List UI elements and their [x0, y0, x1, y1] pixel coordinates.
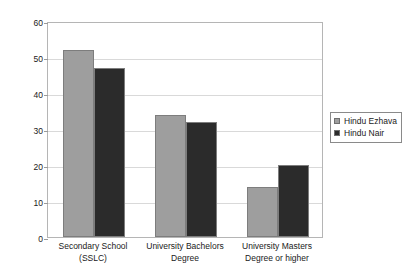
bar-group [63, 23, 125, 237]
x-axis-label-line: University Bachelors [139, 241, 231, 253]
y-tick-label: 40 [34, 91, 48, 100]
bar-group [155, 23, 217, 237]
y-tick-label: 20 [34, 163, 48, 172]
bar-chart-figure: 0102030405060 Secondary School(SSLC)Univ… [0, 0, 410, 277]
bar [278, 165, 309, 237]
x-axis-label: University MastersDegree or higher [231, 241, 323, 264]
x-axis-label-line: (SSLC) [47, 253, 139, 265]
x-axis-label-line: Degree or higher [231, 253, 323, 265]
y-tick-label: 30 [34, 127, 48, 136]
bar [247, 187, 278, 237]
x-axis-label: University BachelorsDegree [139, 241, 231, 264]
x-axis-label: Secondary School(SSLC) [47, 241, 139, 264]
legend-label: Hindu Nair [344, 129, 384, 138]
legend-swatch-icon [334, 130, 340, 136]
plot-area: 0102030405060 [47, 22, 323, 238]
bar [94, 68, 125, 237]
x-axis-label-line: Degree [139, 253, 231, 265]
x-axis-label-line: Secondary School [47, 241, 139, 253]
bar [186, 122, 217, 237]
x-axis-category-labels: Secondary School(SSLC)University Bachelo… [47, 241, 323, 275]
legend-swatch-icon [334, 118, 340, 124]
legend-label: Hindu Ezhava [344, 117, 397, 126]
y-tick-label: 60 [34, 19, 48, 28]
x-axis-label-line: University Masters [231, 241, 323, 253]
y-tick-label: 50 [34, 55, 48, 64]
legend: Hindu EzhavaHindu Nair [330, 112, 402, 143]
y-tick-label: 10 [34, 199, 48, 208]
bar [155, 115, 186, 237]
legend-item[interactable]: Hindu Ezhava [334, 115, 397, 127]
bar [63, 50, 94, 237]
bars-layer [48, 23, 322, 237]
legend-item[interactable]: Hindu Nair [334, 127, 397, 139]
bar-group [247, 23, 309, 237]
